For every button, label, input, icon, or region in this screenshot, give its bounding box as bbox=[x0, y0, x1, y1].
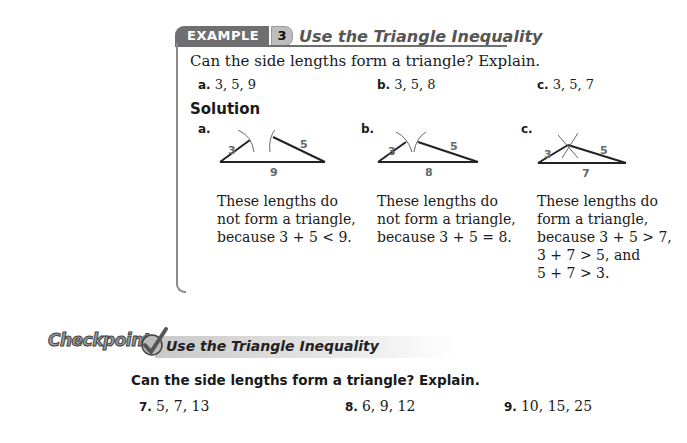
example-number: 3 bbox=[271, 26, 293, 46]
example-title: Use the Triangle Inequality bbox=[299, 27, 542, 46]
solution-a-explanation: These lengths do not form a triangle, be… bbox=[217, 192, 356, 246]
solution-b-explanation: These lengths do not form a triangle, be… bbox=[377, 192, 516, 246]
example-item-c: c.3, 5, 7 bbox=[537, 77, 594, 92]
exercise-9: 9.10, 15, 25 bbox=[504, 398, 592, 414]
svg-text:7: 7 bbox=[582, 167, 590, 180]
svg-text:9: 9 bbox=[270, 166, 278, 179]
example-tab: EXAMPLE bbox=[175, 26, 269, 46]
checkpoint-logo: Checkpoint bbox=[48, 330, 150, 350]
svg-text:3: 3 bbox=[544, 148, 552, 161]
svg-text:5: 5 bbox=[300, 138, 308, 151]
checkpoint-question: Can the side lengths form a triangle? Ex… bbox=[131, 372, 480, 388]
example-header-rule bbox=[175, 45, 507, 47]
solution-a-label: a. bbox=[198, 122, 211, 136]
svg-text:3: 3 bbox=[388, 145, 396, 158]
svg-text:5: 5 bbox=[450, 140, 458, 153]
solution-heading: Solution bbox=[190, 100, 260, 118]
triangle-diagram-a: 3 5 9 bbox=[210, 130, 330, 182]
svg-text:5: 5 bbox=[600, 144, 608, 157]
solution-c-explanation: These lengths do form a triangle, becaus… bbox=[537, 192, 672, 282]
example-frame bbox=[176, 43, 186, 293]
example-question: Can the side lengths form a triangle? Ex… bbox=[190, 52, 540, 70]
svg-text:8: 8 bbox=[425, 166, 433, 179]
example-item-b: b.3, 5, 8 bbox=[377, 77, 436, 92]
example-item-a: a.3, 5, 9 bbox=[198, 77, 256, 92]
checkpoint-title: Use the Triangle Inequality bbox=[166, 338, 379, 354]
exercise-8: 8.6, 9, 12 bbox=[345, 398, 415, 414]
triangle-diagram-b: 3 5 8 bbox=[370, 130, 490, 182]
triangle-diagram-c: 3 5 7 bbox=[530, 130, 640, 182]
exercise-7: 7.5, 7, 13 bbox=[139, 398, 209, 414]
svg-text:3: 3 bbox=[228, 144, 236, 157]
example-header: EXAMPLE 3 Use the Triangle Inequality bbox=[175, 26, 542, 46]
